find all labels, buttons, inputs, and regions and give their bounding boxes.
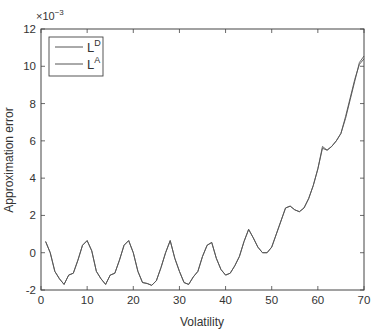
y-tick-label: 10 — [23, 60, 36, 72]
legend-label-ld-sup: D — [94, 38, 101, 48]
approximation-error-chart: 010203040506070 -2024681012 ×10−3 Volati… — [0, 0, 385, 333]
legend-label-ld-base: L — [87, 40, 94, 55]
x-tick-label: 0 — [38, 294, 44, 306]
legend-label-la-sup: A — [94, 55, 100, 65]
x-tick-label: 10 — [81, 294, 94, 306]
x-tick-label: 30 — [173, 294, 186, 306]
legend: LD LA — [49, 37, 103, 76]
y-axis-label: Approximation error — [2, 107, 16, 212]
x-tick-label: 20 — [127, 294, 140, 306]
x-tick-label: 60 — [311, 294, 324, 306]
y-tick-label: -2 — [26, 284, 36, 296]
y-multiplier-exponent: −3 — [55, 8, 65, 17]
x-tick-label: 70 — [358, 294, 371, 306]
y-tick-label: 12 — [23, 23, 36, 35]
y-multiplier-base: ×10 — [36, 10, 55, 22]
y-multiplier-label: ×10−3 — [36, 8, 64, 22]
y-tick-label: 0 — [30, 247, 36, 259]
x-tick-label: 40 — [219, 294, 232, 306]
x-axis-label: Volatility — [180, 315, 224, 329]
y-tick-label: 6 — [30, 135, 36, 147]
y-tick-label: 4 — [30, 172, 37, 184]
y-tick-label: 8 — [30, 98, 36, 110]
legend-label-la-base: L — [87, 57, 94, 72]
x-tick-label: 50 — [265, 294, 278, 306]
y-tick-label: 2 — [30, 209, 36, 221]
